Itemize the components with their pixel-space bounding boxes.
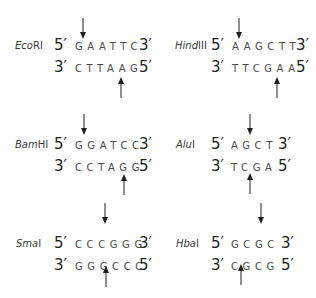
top-strand-sequence: GCGC xyxy=(231,239,279,250)
cut-arrow-up-icon xyxy=(115,77,127,98)
enzyme-label-hindiii: HindIII xyxy=(175,40,207,51)
hbai-panel: HbaI 5′ GCGC 3′ 3′ CGCG 5′ xyxy=(158,198,316,297)
bottom-five-prime: 5′ xyxy=(281,256,294,274)
cut-arrow-down-icon xyxy=(78,114,90,135)
bottom-three-prime: 3′ xyxy=(54,157,67,175)
cut-arrow-up-icon xyxy=(271,77,283,98)
top-five-prime: 5′ xyxy=(54,36,67,54)
cut-arrow-up-icon xyxy=(235,264,247,285)
enzyme-name-roman: I xyxy=(38,238,41,249)
bamhi-panel: BamHI 5′ GGATCC 3′ 3′ CCTAGG 5′ xyxy=(0,99,158,198)
cut-arrow-down-icon xyxy=(77,18,89,39)
enzyme-name-roman: I xyxy=(196,238,199,249)
enzyme-name-roman: HI xyxy=(38,139,48,150)
bottom-three-prime: 3′ xyxy=(211,256,224,274)
top-strand-sequence: GAATTC xyxy=(75,41,142,52)
bottom-strand-sequence: CTTAAG xyxy=(75,63,142,74)
enzyme-name-roman: I xyxy=(192,139,195,150)
enzyme-label-ecori: EcoRI xyxy=(15,40,43,51)
enzyme-name-italic: Hind xyxy=(175,40,198,51)
enzyme-name-italic: Sma xyxy=(16,238,38,249)
bottom-five-prime: 5′ xyxy=(296,58,309,76)
cut-arrow-down-icon xyxy=(255,203,267,224)
cut-arrow-up-icon xyxy=(244,173,256,194)
top-five-prime: 5′ xyxy=(211,234,224,252)
bottom-three-prime: 3′ xyxy=(54,256,67,274)
cut-arrow-up-icon xyxy=(118,174,130,195)
enzyme-name-italic: Alu xyxy=(176,139,192,150)
top-three-prime: 3′ xyxy=(281,234,294,252)
hindiii-panel: HindIII 5′ AAGCTT 3′ 3′ TTCGAA 5′ xyxy=(158,0,316,99)
enzyme-name-roman: III xyxy=(198,40,207,51)
bottom-three-prime: 3′ xyxy=(54,58,67,76)
bottom-five-prime: 5′ xyxy=(139,157,152,175)
bottom-three-prime: 3′ xyxy=(211,58,224,76)
enzyme-label-smai: SmaI xyxy=(16,238,41,249)
bottom-strand-sequence: CCTAGG xyxy=(75,162,144,173)
top-three-prime: 3′ xyxy=(278,135,291,153)
bottom-strand-sequence: TCGA xyxy=(231,162,277,173)
bottom-five-prime: 5′ xyxy=(278,157,291,175)
cut-arrow-up-icon xyxy=(100,266,112,287)
top-five-prime: 5′ xyxy=(54,234,67,252)
ecori-panel: EcoRI 5′ GAATTC 3′ 3′ CTTAAG 5′ xyxy=(0,0,158,99)
enzyme-label-hbai: HbaI xyxy=(176,238,199,249)
bottom-strand-sequence: TTCGAA xyxy=(232,63,300,74)
cut-arrow-down-icon xyxy=(99,203,111,224)
enzyme-label-alui: AluI xyxy=(176,139,195,150)
top-strand-sequence: GGATCC xyxy=(75,140,144,151)
top-five-prime: 5′ xyxy=(54,135,67,153)
cut-arrow-down-icon xyxy=(244,114,256,135)
bottom-three-prime: 3′ xyxy=(211,157,224,175)
top-five-prime: 5′ xyxy=(211,135,224,153)
top-strand-sequence: CCCGGG xyxy=(75,239,147,250)
top-five-prime: 5′ xyxy=(211,36,224,54)
top-three-prime: 3′ xyxy=(296,36,309,54)
bottom-five-prime: 5′ xyxy=(139,58,152,76)
top-strand-sequence: AGCT xyxy=(231,140,277,151)
bottom-five-prime: 5′ xyxy=(139,256,152,274)
alui-panel: AluI 5′ AGCT 3′ 3′ TCGA 5′ xyxy=(158,99,316,198)
smai-panel: SmaI 5′ CCCGGG 3′ 3′ GGGCCC 5′ xyxy=(0,198,158,297)
top-three-prime: 3′ xyxy=(139,135,152,153)
enzyme-name-italic: Eco xyxy=(15,40,33,51)
cut-arrow-down-icon xyxy=(233,18,245,39)
enzyme-name-italic: Bam xyxy=(15,139,38,150)
enzyme-name-roman: RI xyxy=(33,40,43,51)
top-strand-sequence: AAGCTT xyxy=(232,41,300,52)
enzyme-name-italic: Hba xyxy=(176,238,196,249)
top-three-prime: 3′ xyxy=(139,36,152,54)
top-three-prime: 3′ xyxy=(139,234,152,252)
enzyme-label-bamhi: BamHI xyxy=(15,139,48,150)
